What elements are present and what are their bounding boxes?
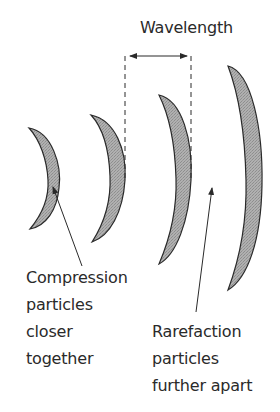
crescent-wavefront-4 xyxy=(228,66,262,290)
rarefaction-label: Rarefaction particles further apart xyxy=(152,318,252,399)
compression-line-2: particles xyxy=(26,291,128,318)
compression-label: Compression particles closer together xyxy=(26,264,128,372)
compression-line-3: closer xyxy=(26,318,128,345)
rarefaction-pointer xyxy=(196,188,212,312)
rarefaction-line-2: particles xyxy=(152,345,252,372)
crescent-wavefront-3 xyxy=(159,95,191,264)
crescent-wavefront-1 xyxy=(29,128,60,229)
wavelength-label: Wavelength xyxy=(140,18,233,38)
compression-pointer xyxy=(53,187,82,266)
rarefaction-line-1: Rarefaction xyxy=(152,318,252,345)
rarefaction-line-3: further apart xyxy=(152,372,252,399)
sound-wave-diagram: Wavelength Compression particles closer … xyxy=(0,0,280,412)
compression-line-4: together xyxy=(26,345,128,372)
compression-line-1: Compression xyxy=(26,264,128,291)
crescent-wavefront-2 xyxy=(91,115,125,242)
